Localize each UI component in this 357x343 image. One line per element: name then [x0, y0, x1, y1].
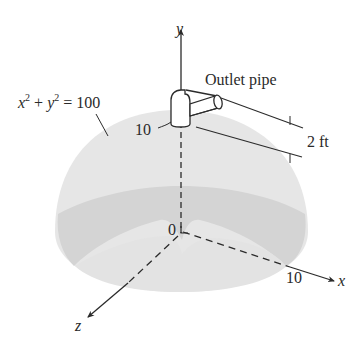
diagram-canvas: y x z 0 Outlet pipe 2 ft 10 10 x2 + y2 =… — [0, 0, 357, 343]
radius-top-label: 10 — [135, 122, 151, 138]
x-axis-label: x — [338, 273, 345, 289]
radius-x-label: 10 — [286, 270, 302, 286]
pipe-height-label: 2 ft — [307, 134, 329, 150]
z-axis-solid — [88, 283, 128, 317]
equation-rhs: = 100 — [63, 94, 100, 111]
equation-exp-y: 2 — [54, 92, 59, 103]
origin-label: 0 — [168, 222, 176, 238]
z-axis-label: z — [75, 318, 81, 334]
equation-exp-x: 2 — [25, 92, 30, 103]
y-axis-label: y — [176, 21, 183, 37]
diagram-svg — [0, 0, 357, 343]
equation-label: x2 + y2 = 100 — [18, 93, 100, 111]
equation-plus: + — [34, 94, 43, 111]
outlet-pipe-label: Outlet pipe — [205, 72, 277, 88]
